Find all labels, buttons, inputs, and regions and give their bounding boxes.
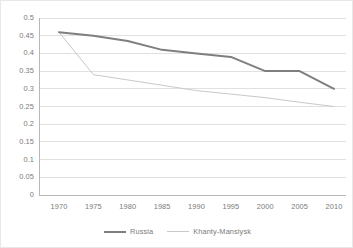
- line-chart: 00.050.10.150.20.250.30.350.40.450.5 197…: [0, 0, 353, 248]
- y-tick-label: 0.35: [4, 66, 34, 75]
- x-tick-label: 2000: [248, 202, 282, 211]
- legend-item-russia[interactable]: Russia: [104, 227, 153, 236]
- gridlines: [39, 18, 346, 177]
- y-tick-label: 0.2: [4, 119, 34, 128]
- y-tick-label: 0.4: [4, 48, 34, 57]
- y-tick-label: 0.5: [4, 13, 34, 22]
- x-tick-label: 2010: [317, 202, 351, 211]
- series-line-khanty-mansiysk: [59, 32, 334, 106]
- x-tick-label: 2005: [283, 202, 317, 211]
- y-tick-label: 0: [4, 190, 34, 199]
- y-tick-label: 0.15: [4, 137, 34, 146]
- legend-line-khanty-mansiysk-icon: [167, 231, 189, 232]
- y-tick-label: 0.3: [4, 84, 34, 93]
- x-tick-label: 1995: [214, 202, 248, 211]
- x-tick-label: 1975: [76, 202, 110, 211]
- legend-label-khanty-mansiysk: Khanty-Mansiysk: [193, 227, 251, 236]
- x-tick-label: 1990: [180, 202, 214, 211]
- chart-legend: Russia Khanty-Mansiysk: [1, 227, 353, 236]
- y-tick-label: 0.25: [4, 102, 34, 111]
- x-tick-label: 1985: [145, 202, 179, 211]
- series-line-russia: [59, 32, 334, 89]
- x-tick-label: 1970: [42, 202, 76, 211]
- y-tick-label: 0.05: [4, 172, 34, 181]
- y-tick-label: 0.1: [4, 155, 34, 164]
- x-tick-label: 1980: [111, 202, 145, 211]
- legend-item-khanty-mansiysk[interactable]: Khanty-Mansiysk: [167, 227, 251, 236]
- legend-label-russia: Russia: [130, 227, 153, 236]
- data-series: [59, 32, 334, 106]
- y-tick-label: 0.45: [4, 31, 34, 40]
- legend-line-russia-icon: [104, 231, 126, 233]
